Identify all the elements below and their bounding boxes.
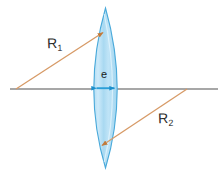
label-r1-text: R bbox=[47, 35, 58, 51]
diagram-canvas bbox=[0, 0, 223, 173]
label-r2-subscript: 2 bbox=[168, 118, 173, 128]
label-r1-subscript: 1 bbox=[57, 43, 62, 53]
label-r2-text: R bbox=[158, 110, 169, 126]
label-thickness: e bbox=[101, 69, 107, 80]
lens-diagram-figure: R1 R2 e bbox=[0, 0, 223, 173]
label-r1: R1 bbox=[47, 36, 63, 51]
label-r2: R2 bbox=[158, 111, 174, 126]
